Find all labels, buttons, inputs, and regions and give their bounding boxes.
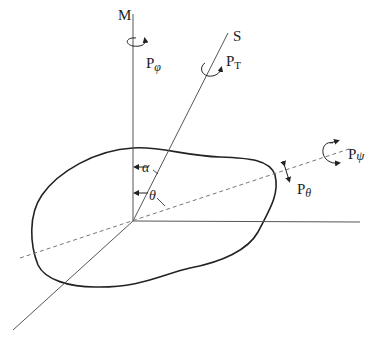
theta-label: θ — [149, 188, 156, 203]
double-arrow-theta-icon — [284, 164, 289, 180]
dashed-axis — [20, 148, 352, 258]
p-theta-label: Pθ — [297, 181, 311, 200]
depth-axis — [13, 221, 133, 330]
rotation-arrow-t-icon — [202, 63, 221, 76]
alpha-label: α — [142, 160, 150, 175]
diagram-canvas: M S Pφ PT Pψ Pθ α θ — [0, 0, 381, 339]
m-axis-label: M — [118, 7, 131, 23]
p-phi-label: Pφ — [146, 55, 161, 74]
p-psi-label: Pψ — [348, 146, 365, 163]
rotation-arrow-phi-icon — [127, 38, 145, 46]
rotation-arrow-psi-icon — [323, 143, 338, 164]
s-axis-label: S — [233, 28, 241, 44]
body-outline — [32, 148, 276, 287]
p-t-label: PT — [226, 53, 241, 71]
horizontal-axis — [133, 221, 360, 222]
